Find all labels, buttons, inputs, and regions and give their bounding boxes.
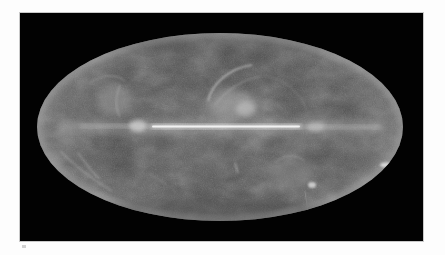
scan-mark bbox=[22, 245, 26, 248]
galactic-plane bbox=[60, 117, 382, 137]
right-edge-knot bbox=[380, 163, 392, 168]
sky-map-image bbox=[20, 13, 423, 241]
north-pole-dark bbox=[100, 31, 340, 55]
page bbox=[0, 0, 445, 255]
south-pole-dark bbox=[100, 199, 340, 227]
sky-map-graphic bbox=[20, 13, 423, 241]
